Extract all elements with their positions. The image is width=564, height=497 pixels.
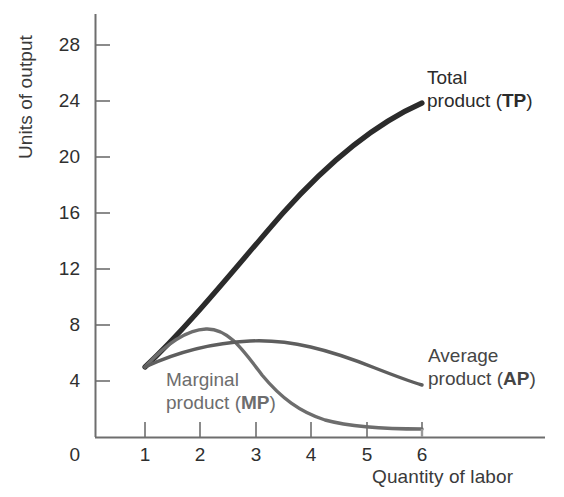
y-tick-label-12: 12 bbox=[46, 258, 80, 280]
ap-abbr: AP bbox=[503, 368, 529, 389]
total-product-label-line1: Total bbox=[427, 66, 533, 89]
mp-abbr: MP bbox=[241, 392, 270, 413]
y-tick-label-24: 24 bbox=[46, 90, 80, 112]
average-product-label-line2: product (AP) bbox=[428, 367, 536, 390]
x-tick-label-1: 1 bbox=[133, 444, 157, 466]
x-tick-label-3: 3 bbox=[244, 444, 268, 466]
x-axis-title: Quantity of labor bbox=[372, 466, 513, 488]
y-axis-title: Units of output bbox=[15, 9, 37, 185]
axis-origin-label: 0 bbox=[46, 444, 80, 466]
y-tick-label-20: 20 bbox=[46, 146, 80, 168]
marginal-product-label-line2: product (MP) bbox=[166, 391, 276, 414]
x-tick-label-2: 2 bbox=[188, 444, 212, 466]
y-tick-label-16: 16 bbox=[46, 202, 80, 224]
marginal-product-label-line1: Marginal bbox=[166, 368, 276, 391]
average-product-label: Average product (AP) bbox=[428, 344, 536, 390]
y-tick-label-28: 28 bbox=[46, 34, 80, 56]
x-tick-label-5: 5 bbox=[355, 444, 379, 466]
y-tick-marks bbox=[95, 45, 110, 381]
y-tick-label-4: 4 bbox=[46, 370, 80, 392]
tp-abbr: TP bbox=[502, 90, 526, 111]
x-tick-label-6: 6 bbox=[410, 444, 434, 466]
y-tick-label-8: 8 bbox=[46, 314, 80, 336]
marginal-product-label: Marginal product (MP) bbox=[166, 368, 276, 414]
average-product-label-line1: Average bbox=[428, 344, 536, 367]
total-product-label: Total product (TP) bbox=[427, 66, 533, 112]
x-tick-label-4: 4 bbox=[299, 444, 323, 466]
total-product-label-line2: product (TP) bbox=[427, 89, 533, 112]
product-curves-chart: 28 24 20 16 12 8 4 0 1 2 3 4 5 6 Units o… bbox=[0, 0, 564, 497]
total-product-curve bbox=[145, 103, 422, 367]
